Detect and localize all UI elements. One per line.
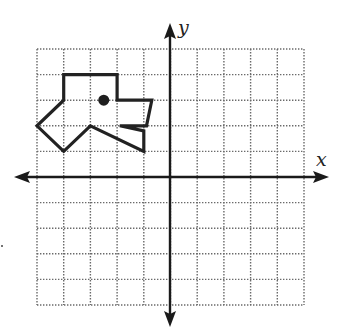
dog-head-shape — [37, 75, 152, 152]
coordinate-plane — [0, 0, 346, 333]
x-axis-label: x — [316, 150, 327, 169]
y-axis-label: y — [178, 18, 189, 37]
eye-dot — [98, 95, 109, 106]
axes — [14, 23, 329, 327]
stray-mark — [1, 245, 3, 247]
